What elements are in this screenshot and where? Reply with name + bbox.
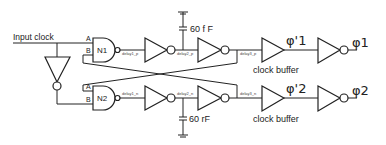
clock-buffer-bottom-icon (262, 86, 284, 111)
phi2-prime-label: φ'2 (286, 81, 306, 96)
inverter-bottom-2-icon (198, 86, 229, 110)
n1-pin-a-label: A (86, 35, 91, 42)
n1-pin-b-label: B (86, 47, 91, 54)
non-overlapping-clock-generator-diagram: Input clock N1 A B N2 A B delay1_p delay… (0, 0, 386, 145)
phi2-label: φ2 (352, 83, 369, 98)
inverter-bottom-1-icon (145, 86, 175, 110)
capacitor-top-icon (178, 12, 188, 50)
clock-buffer-bottom-label: clock buffer (253, 114, 299, 124)
clock-buffer-top-icon (262, 38, 284, 62)
delay3-p-label: delay3_p (240, 51, 257, 56)
capacitor-bottom-icon (178, 98, 188, 137)
capacitor-bottom-label: 60 rF (189, 114, 211, 124)
phi1-label: φ1 (352, 35, 369, 50)
delay3-n-label: delay3_n (240, 91, 256, 96)
capacitor-top-label: 60 f F (190, 24, 214, 34)
delay1-n-label: delay1_n (122, 91, 138, 96)
delay1-p-label: delay1_p (122, 51, 139, 56)
delay2-p-label: delay2_p (177, 51, 194, 56)
clock-buffer-top-label: clock buffer (253, 65, 299, 75)
inverter-top-1-icon (145, 38, 175, 62)
inverter-top-2-icon (198, 38, 229, 62)
input-clock-label: Input clock (13, 32, 54, 42)
phi1-prime-label: φ'1 (286, 33, 306, 48)
n1-label: N1 (97, 46, 108, 55)
input-clock-wire (13, 43, 93, 57)
n2-pin-b-label: B (86, 96, 91, 103)
delay2-n-label: delay2_n (177, 91, 193, 96)
n2-label: N2 (97, 94, 108, 103)
